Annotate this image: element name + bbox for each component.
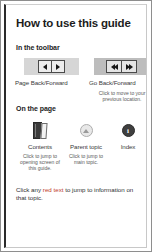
- go-nav-button-pair: [106, 60, 137, 73]
- section-heading-toolbar: In the toolbar: [16, 44, 139, 51]
- page-icons-row: Contents Click to jump to opening screen…: [15, 119, 139, 172]
- guide-page: How to use this guide In the toolbar: [4, 4, 147, 248]
- index-icon-box: i: [122, 119, 135, 139]
- toolbar-captions-row: Page Back/Forward Go Back/Forward Click …: [15, 79, 139, 88]
- double-triangle-left-icon: [111, 64, 118, 70]
- up-arrow-circle-icon: [80, 124, 93, 137]
- page-back-button[interactable]: [39, 61, 51, 72]
- index-label: Index: [121, 143, 136, 150]
- go-forward-button[interactable]: [121, 61, 136, 72]
- book-icon: [33, 122, 47, 139]
- go-nav-toolbar-strip: [94, 58, 147, 75]
- parent-topic-icon-box: [80, 119, 93, 139]
- parent-topic-label: Parent topic: [70, 143, 102, 150]
- contents-item[interactable]: Contents Click to jump to opening screen…: [17, 119, 63, 172]
- section-heading-page: On the page: [16, 105, 139, 112]
- footer-text-before: Click any: [16, 186, 43, 193]
- page-nav-caption: Page Back/Forward: [15, 79, 68, 86]
- contents-label: Contents: [28, 143, 52, 150]
- info-circle-icon: i: [122, 124, 135, 137]
- red-text-highlight: red text: [43, 186, 64, 193]
- contents-subcaption: Click to jump to opening screen of this …: [17, 153, 63, 172]
- toolbar-demo-row: [15, 58, 139, 75]
- footer-note: Click any red text to jump to informatio…: [16, 186, 140, 202]
- go-nav-caption: Go Back/Forward: [89, 79, 136, 86]
- parent-topic-subcaption: Click to jump to main topic.: [63, 153, 109, 165]
- go-back-button[interactable]: [107, 61, 121, 72]
- page-nav-button-pair: [38, 60, 65, 73]
- page-forward-button[interactable]: [51, 61, 64, 72]
- triangle-left-icon: [43, 64, 47, 70]
- double-triangle-right-icon: [126, 64, 133, 70]
- contents-icon-box: [33, 119, 47, 139]
- parent-topic-item[interactable]: Parent topic Click to jump to main topic…: [63, 119, 109, 172]
- page-nav-toolbar-strip: [24, 58, 79, 75]
- index-item[interactable]: i Index: [109, 119, 147, 172]
- page-title: How to use this guide: [16, 17, 139, 30]
- go-nav-subcaption: Click to move to your previous location.: [93, 90, 147, 102]
- triangle-right-icon: [56, 64, 60, 70]
- guide-window: How to use this guide In the toolbar: [0, 0, 152, 252]
